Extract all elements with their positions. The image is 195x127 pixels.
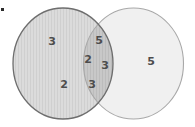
venn-diagram-figure: 3 2 5 2 3 3 5 xyxy=(0,0,195,127)
label-intersection-right: 3 xyxy=(98,60,112,71)
label-intersection-top: 5 xyxy=(92,35,106,46)
label-intersection-left: 2 xyxy=(81,54,95,65)
label-right-only-center: 5 xyxy=(144,56,158,67)
label-left-only-lower: 2 xyxy=(57,79,71,90)
label-left-only-upper: 3 xyxy=(45,36,59,47)
scan-speck-artifact xyxy=(1,8,4,11)
label-intersection-bottom: 3 xyxy=(85,79,99,90)
